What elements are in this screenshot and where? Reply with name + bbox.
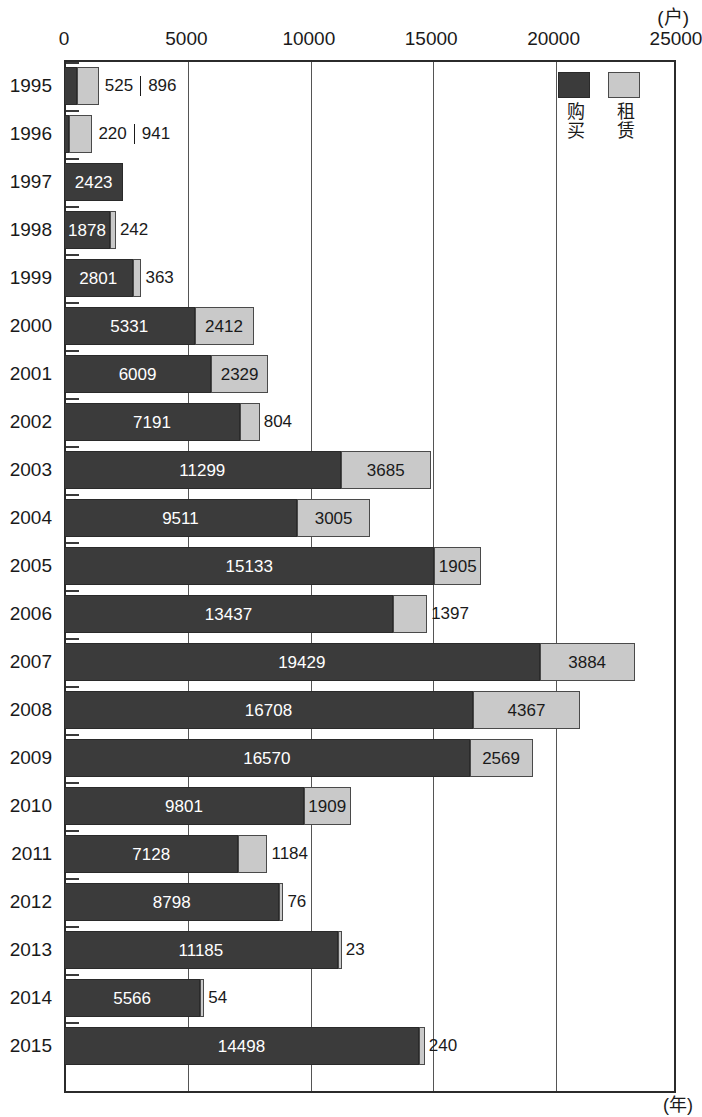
- bar-row[interactable]: 95113005: [64, 494, 676, 542]
- bar-segment-rent[interactable]: 1909: [304, 787, 351, 825]
- stacked-bar: 8798: [64, 883, 283, 921]
- bar-row[interactable]: 1118523: [64, 926, 676, 974]
- bar-value-label-rent: 1905: [439, 558, 477, 575]
- bar-row[interactable]: 112993685: [64, 446, 676, 494]
- bar-row[interactable]: 165702569: [64, 734, 676, 782]
- bar-rows-layer: 5258962209412423187824228013635331241260…: [64, 60, 676, 1093]
- bar-segment-buy[interactable]: 9801: [64, 787, 304, 825]
- y-axis-tick-2015: 2015: [10, 1022, 52, 1070]
- bar-segment-buy[interactable]: 11185: [64, 931, 338, 969]
- bar-segment-rent[interactable]: 3005: [297, 499, 371, 537]
- bar-value-label-buy: 2801: [79, 270, 117, 287]
- legend-label-rent: 租赁: [615, 102, 633, 140]
- legend-entry-rent[interactable]: 租赁: [606, 72, 642, 140]
- bar-segment-buy[interactable]: 14498: [64, 1027, 419, 1065]
- bar-segment-rent[interactable]: 3685: [341, 451, 431, 489]
- bar-value-label-buy: 16570: [243, 750, 290, 767]
- bar-value-label-rent: 896: [148, 76, 176, 96]
- bar-segment-rent[interactable]: 4367: [473, 691, 580, 729]
- bar-segment-rent[interactable]: [77, 67, 99, 105]
- bar-row[interactable]: 14498240: [64, 1022, 676, 1070]
- bar-segment-buy[interactable]: 7128: [64, 835, 238, 873]
- bar-segment-buy[interactable]: 16570: [64, 739, 470, 777]
- y-axis-tick-2008: 2008: [10, 686, 52, 734]
- x-axis-unit-caption: (户): [657, 2, 689, 29]
- row-tick-mark: [66, 62, 79, 64]
- bar-row[interactable]: 98011909: [64, 782, 676, 830]
- bar-segment-rent[interactable]: 1905: [434, 547, 481, 585]
- y-axis-tick-2014: 2014: [10, 974, 52, 1022]
- y-axis-tick-2001: 2001: [10, 350, 52, 398]
- y-axis-tick-2002: 2002: [10, 398, 52, 446]
- bar-row[interactable]: 556654: [64, 974, 676, 1022]
- bar-value-label-buy: 15133: [226, 558, 273, 575]
- y-axis-tick-2010: 2010: [10, 782, 52, 830]
- bar-segment-buy[interactable]: 11299: [64, 451, 341, 489]
- bar-value-label-buy: 525: [105, 76, 133, 96]
- bar-segment-rent[interactable]: 3884: [540, 643, 635, 681]
- stacked-bar: 13437: [64, 595, 427, 633]
- stacked-bar: 11185: [64, 931, 342, 969]
- bar-value-label-buy: 5566: [113, 990, 151, 1007]
- bar-segment-buy[interactable]: 7191: [64, 403, 240, 441]
- bar-segment-rent[interactable]: 2569: [470, 739, 533, 777]
- stacked-bar: 5566: [64, 979, 204, 1017]
- row-tick-mark: [66, 350, 79, 352]
- y-axis-tick-2009: 2009: [10, 734, 52, 782]
- y-axis-tick-2005: 2005: [10, 542, 52, 590]
- bar-segment-buy[interactable]: 13437: [64, 595, 393, 633]
- bar-segment-buy[interactable]: 19429: [64, 643, 540, 681]
- bar-segment-buy[interactable]: [64, 67, 77, 105]
- bar-segment-buy[interactable]: 8798: [64, 883, 279, 921]
- bar-segment-buy[interactable]: 2423: [64, 163, 123, 201]
- label-divider: [134, 124, 135, 144]
- legend-entry-buy[interactable]: 购买: [556, 72, 592, 140]
- bar-row[interactable]: 167084367: [64, 686, 676, 734]
- legend-label-buy: 购买: [565, 102, 583, 140]
- bar-row[interactable]: 151331905: [64, 542, 676, 590]
- bar-segment-buy[interactable]: 6009: [64, 355, 211, 393]
- bar-row[interactable]: 71281184: [64, 830, 676, 878]
- bar-row[interactable]: 2423: [64, 158, 676, 206]
- bar-segment-rent[interactable]: [240, 403, 260, 441]
- bar-value-label-rent: 4367: [508, 702, 546, 719]
- bar-value-label-rent: 23: [342, 931, 365, 969]
- bar-row[interactable]: 134371397: [64, 590, 676, 638]
- bar-segment-rent[interactable]: 2412: [195, 307, 254, 345]
- bar-row[interactable]: 7191804: [64, 398, 676, 446]
- bar-segment-rent[interactable]: [238, 835, 267, 873]
- y-axis-tick-1999: 1999: [10, 254, 52, 302]
- bar-row[interactable]: 194293884: [64, 638, 676, 686]
- bar-value-label-rent: 3685: [367, 462, 405, 479]
- bar-segment-rent[interactable]: [69, 115, 92, 153]
- bar-value-label-buy: 2423: [75, 174, 113, 191]
- bar-value-label-pair: 220941: [92, 115, 170, 153]
- x-axis-tick-labels: 0500010000150002000025000: [0, 28, 701, 54]
- bar-segment-rent[interactable]: [133, 259, 142, 297]
- y-axis-tick-2013: 2013: [10, 926, 52, 974]
- bar-segment-rent[interactable]: 2329: [211, 355, 268, 393]
- bar-segment-buy[interactable]: 1878: [64, 211, 110, 249]
- y-axis-tick-1998: 1998: [10, 206, 52, 254]
- bar-row[interactable]: 879876: [64, 878, 676, 926]
- bar-segment-buy[interactable]: 9511: [64, 499, 297, 537]
- row-tick-mark: [66, 494, 79, 496]
- bar-row[interactable]: 60092329: [64, 350, 676, 398]
- row-tick-mark: [66, 878, 79, 880]
- bar-row[interactable]: 1878242: [64, 206, 676, 254]
- bar-segment-buy[interactable]: 2801: [64, 259, 133, 297]
- bar-segment-buy[interactable]: 5331: [64, 307, 195, 345]
- bar-segment-buy[interactable]: 16708: [64, 691, 473, 729]
- row-tick-mark: [66, 974, 79, 976]
- y-axis-unit-caption: (年): [663, 1090, 693, 1116]
- bar-segment-rent[interactable]: [393, 595, 427, 633]
- bar-value-label-rent: 941: [142, 124, 170, 144]
- stacked-bar: 2423: [64, 163, 123, 201]
- bar-value-label-buy: 5331: [110, 318, 148, 335]
- bar-row[interactable]: 53312412: [64, 302, 676, 350]
- x-axis-tick-20000: 20000: [527, 28, 580, 50]
- bar-value-label-buy: 8798: [153, 894, 191, 911]
- bar-segment-buy[interactable]: 15133: [64, 547, 434, 585]
- bar-segment-buy[interactable]: 5566: [64, 979, 200, 1017]
- bar-row[interactable]: 2801363: [64, 254, 676, 302]
